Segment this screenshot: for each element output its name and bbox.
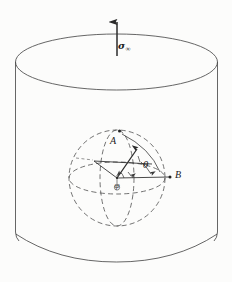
figure-container: σ∞ A B θ φ — [0, 0, 232, 282]
coordinate-construction — [76, 134, 169, 190]
azimuth-direction-arrow — [128, 172, 132, 177]
point-b-label: B — [175, 170, 181, 180]
point-a-label: A — [110, 136, 116, 146]
phi-angle-arc — [121, 172, 125, 178]
cylinder-left-wall — [16, 62, 20, 241]
surface-points — [116, 130, 172, 180]
position-vector-r — [117, 149, 137, 178]
point-B-marker — [169, 176, 172, 179]
theta-angle-label: θ — [143, 161, 148, 170]
sigma-subscript: ∞ — [125, 45, 131, 53]
cylinder-bottom-arc — [16, 234, 217, 262]
radius-to-B — [117, 177, 169, 178]
construction-leader-left — [76, 158, 93, 160]
sphere-center-marker — [116, 177, 118, 179]
cylinder-right-wall — [214, 62, 218, 241]
phi-angle-label: φ — [114, 182, 120, 190]
point-A-marker — [118, 130, 121, 133]
projected-radius — [94, 161, 117, 178]
sigma-infinity-label: σ∞ — [118, 41, 131, 53]
theta-leader — [138, 156, 140, 162]
meridian-arc-A-to-B — [122, 134, 160, 172]
sigma-symbol: σ — [118, 40, 125, 51]
cylinder-body — [16, 34, 218, 262]
